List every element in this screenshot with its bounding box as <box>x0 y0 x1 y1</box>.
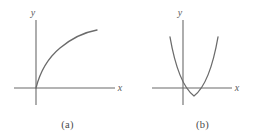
curve-b <box>170 37 218 96</box>
curve-a <box>36 30 97 88</box>
axes-a <box>14 20 115 105</box>
graph-panel-a: y x (a) <box>0 0 135 140</box>
x-axis-label-a: x <box>117 82 123 93</box>
y-axis-label-b: y <box>177 7 183 18</box>
plot-a-svg: y x <box>0 0 135 115</box>
plot-b-svg: y x <box>135 0 270 115</box>
two-graph-figure: y x (a) y x (b) <box>0 0 270 140</box>
caption-b: (b) <box>135 118 270 131</box>
y-axis-label-a: y <box>30 7 36 18</box>
x-axis-label-b: x <box>234 82 240 93</box>
caption-a: (a) <box>0 118 135 131</box>
axes-b <box>152 20 232 105</box>
graph-panel-b: y x (b) <box>135 0 270 140</box>
